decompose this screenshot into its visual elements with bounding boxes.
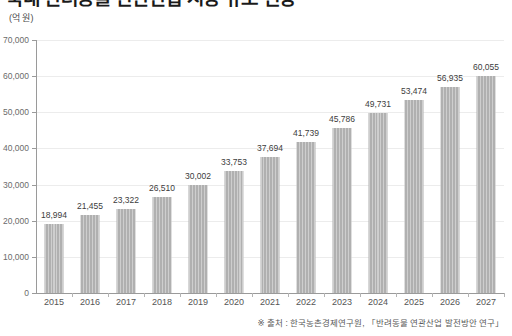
bar-series: 18,99421,45523,32226,51030,00233,75337,6… (36, 40, 504, 293)
bar[interactable] (153, 197, 172, 293)
bar[interactable] (297, 142, 316, 293)
x-axis-tick-label: 2024 (368, 297, 388, 307)
y-axis-tick-label: 20,000 (3, 216, 29, 226)
x-axis-tick-label: 2015 (44, 297, 64, 307)
source-footnote: ※ 출처 : 한국농촌경제연구원, 「반려동물 연관산업 발전방안 연구」 (258, 316, 504, 328)
x-axis-tick-mark (288, 293, 289, 297)
x-axis-tick-mark (144, 293, 145, 297)
bar-value-label: 41,739 (293, 128, 319, 138)
bar-group[interactable]: 49,731 (360, 40, 396, 293)
bar[interactable] (369, 113, 388, 293)
bar-group[interactable]: 30,002 (180, 40, 216, 293)
bar-group[interactable]: 33,753 (216, 40, 252, 293)
x-axis-tick-mark (324, 293, 325, 297)
bar-group[interactable]: 23,322 (108, 40, 144, 293)
x-axis-tick-mark (180, 293, 181, 297)
y-axis-tick-label: 70,000 (3, 35, 29, 45)
bar-value-label: 21,455 (77, 201, 103, 211)
x-axis-tick-mark (468, 293, 469, 297)
bar[interactable] (117, 209, 136, 293)
x-axis-tick-label: 2016 (80, 297, 100, 307)
chart-title: 국내 반려동물 연관산업 시장 규모 전망 (6, 0, 296, 10)
x-axis-tick-mark (252, 293, 253, 297)
y-axis-tick-label: 60,000 (3, 71, 29, 81)
bar-value-label: 49,731 (365, 99, 391, 109)
bar-group[interactable]: 60,055 (468, 40, 504, 293)
y-axis-tick-label: 30,000 (3, 180, 29, 190)
y-axis-tick-label: 40,000 (3, 143, 29, 153)
x-axis-tick-label: 2027 (476, 297, 496, 307)
bar-value-label: 33,753 (221, 157, 247, 167)
bar[interactable] (45, 224, 64, 293)
x-axis-tick-label: 2020 (224, 297, 244, 307)
y-axis-tick-label: 10,000 (3, 252, 29, 262)
bar-group[interactable]: 56,935 (432, 40, 468, 293)
bar[interactable] (405, 100, 424, 293)
bar-value-label: 18,994 (41, 210, 67, 220)
y-axis-tick-label: 50,000 (3, 107, 29, 117)
x-axis-tick-label: 2025 (404, 297, 424, 307)
bar[interactable] (261, 157, 280, 293)
bar-value-label: 56,935 (437, 73, 463, 83)
bar-value-label: 26,510 (149, 183, 175, 193)
bar-value-label: 30,002 (185, 171, 211, 181)
bar-group[interactable]: 18,994 (36, 40, 72, 293)
bar[interactable] (81, 215, 100, 293)
x-axis-tick-label: 2018 (152, 297, 172, 307)
y-axis-tick-mark (32, 293, 36, 294)
bar[interactable] (333, 128, 352, 293)
x-axis-tick-mark (72, 293, 73, 297)
bar[interactable] (441, 87, 460, 293)
bar-group[interactable]: 41,739 (288, 40, 324, 293)
bar[interactable] (477, 76, 496, 293)
bar-value-label: 23,322 (113, 195, 139, 205)
x-axis-tick-mark (504, 293, 505, 297)
x-axis-tick-label: 2019 (188, 297, 208, 307)
x-axis-tick-label: 2017 (116, 297, 136, 307)
x-axis-tick-label: 2026 (440, 297, 460, 307)
x-axis-tick-mark (432, 293, 433, 297)
bar-group[interactable]: 21,455 (72, 40, 108, 293)
x-axis-line (36, 293, 504, 294)
y-axis-tick-label: 0 (24, 288, 29, 298)
x-axis-tick-mark (108, 293, 109, 297)
x-axis-tick-label: 2022 (296, 297, 316, 307)
bar-group[interactable]: 37,694 (252, 40, 288, 293)
bar-group[interactable]: 26,510 (144, 40, 180, 293)
bar-value-label: 37,694 (257, 143, 283, 153)
y-axis-unit-label: (억 원) (9, 11, 34, 24)
bar-group[interactable]: 45,786 (324, 40, 360, 293)
bar-value-label: 53,474 (401, 86, 427, 96)
x-axis-tick-mark (396, 293, 397, 297)
bar-value-label: 60,055 (473, 62, 499, 72)
bar[interactable] (225, 171, 244, 293)
bar-group[interactable]: 53,474 (396, 40, 432, 293)
bar[interactable] (189, 185, 208, 293)
bar-chart-figure: 국내 반려동물 연관산업 시장 규모 전망 (억 원) 010,00020,00… (0, 0, 512, 336)
bar-value-label: 45,786 (329, 114, 355, 124)
x-axis-tick-label: 2023 (332, 297, 352, 307)
x-axis-tick-mark (360, 293, 361, 297)
x-axis-tick-mark (216, 293, 217, 297)
x-axis-tick-label: 2021 (260, 297, 280, 307)
